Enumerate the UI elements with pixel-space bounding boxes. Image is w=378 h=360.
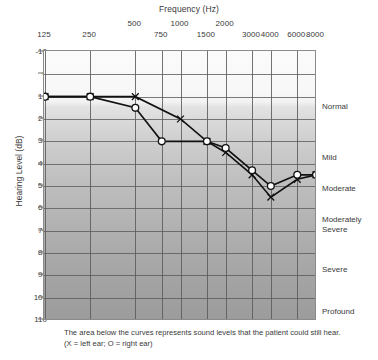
datapoint-O-3000hz-43db	[249, 167, 256, 174]
frequency-tick-250: 250	[82, 30, 96, 39]
datapoint-X-4000hz-55db	[267, 194, 274, 201]
series-line-O	[45, 97, 316, 186]
frequency-tick-1000: 1000	[170, 19, 188, 28]
audiogram-figure: Frequency (Hz) Hearing Level (dB) 125250…	[0, 0, 378, 360]
frequency-tick-500: 500	[128, 19, 142, 28]
datapoint-O-8000hz-45db	[313, 171, 316, 178]
frequency-tick-3000: 3000	[242, 30, 260, 39]
audiogram-curves	[44, 51, 316, 320]
hearing-level-axis-title: Hearing Level (dB)	[14, 111, 24, 231]
severity-label-moderately-severe-line1: Moderately	[322, 215, 362, 225]
datapoint-O-2000hz-33db	[222, 145, 229, 152]
frequency-tick-1500: 1500	[197, 30, 215, 39]
frequency-tick-2000: 2000	[216, 19, 234, 28]
frequency-tick-6000: 6000	[287, 30, 305, 39]
frequency-tick-8000: 8000	[306, 30, 324, 39]
datapoint-X-1000hz-20db	[177, 116, 184, 123]
severity-label-moderately-severe: ModeratelySevere	[322, 215, 362, 235]
datapoint-O-500hz-15db	[132, 104, 139, 111]
caption-line-1: The area below the curves represents sou…	[64, 327, 374, 338]
caption-line-2: (X = left ear; O = right ear)	[64, 338, 374, 349]
audiogram-plot-area	[43, 50, 316, 320]
datapoint-O-250hz-10db	[87, 93, 94, 100]
severity-label-severe: Severe	[322, 265, 347, 275]
series-line-X	[45, 97, 316, 198]
datapoint-O-750hz-30db	[158, 138, 165, 145]
severity-label-moderately-severe-line2: Severe	[322, 225, 362, 235]
severity-label-normal: Normal	[322, 102, 348, 112]
severity-label-profound: Profound	[322, 307, 354, 317]
datapoint-O-4000hz-50db	[267, 183, 274, 190]
severity-label-moderate: Moderate	[322, 184, 356, 194]
datapoint-O-1500hz-30db	[204, 138, 211, 145]
datapoint-O-6000hz-45db	[294, 171, 301, 178]
frequency-axis-title: Frequency (Hz)	[0, 4, 378, 14]
frequency-tick-750: 750	[154, 30, 168, 39]
figure-caption: The area below the curves represents sou…	[64, 327, 374, 349]
datapoint-O-125hz-10db	[43, 93, 48, 100]
frequency-tick-4000: 4000	[261, 30, 279, 39]
severity-label-mild: Mild	[322, 153, 337, 163]
series-right-ear	[43, 93, 316, 189]
frequency-tick-125: 125	[37, 30, 51, 39]
